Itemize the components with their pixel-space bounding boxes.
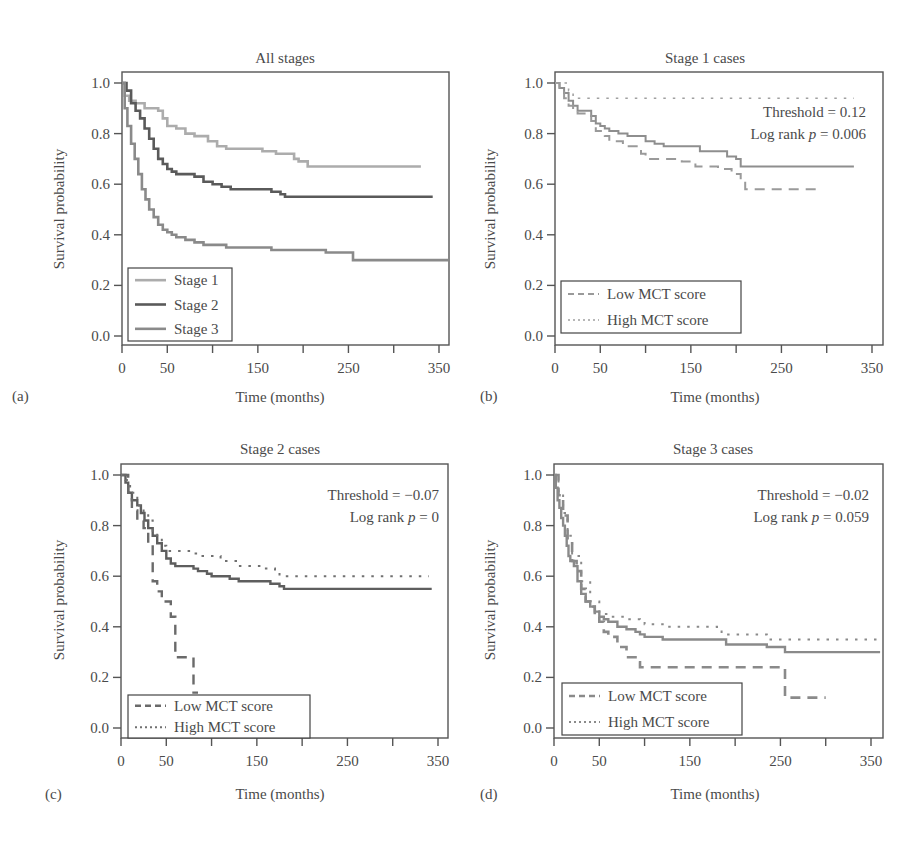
y-tick-label: 0.0 bbox=[523, 720, 542, 736]
x-tick-label: 50 bbox=[592, 753, 607, 769]
y-tick-label: 1.0 bbox=[91, 75, 110, 91]
panel-label: (d) bbox=[480, 786, 498, 803]
figure-canvas: All stages (a) Time (months) Survival pr… bbox=[0, 0, 923, 841]
y-tick-label: 0.2 bbox=[90, 669, 109, 685]
panel-b: Stage 1 cases (b) Time (months) Survival… bbox=[480, 50, 883, 406]
series-overall bbox=[555, 83, 854, 167]
y-tick-label: 0.4 bbox=[524, 227, 543, 243]
y-tick-label: 0.6 bbox=[524, 176, 543, 192]
panel-label: (c) bbox=[45, 786, 62, 803]
legend-label: Stage 1 bbox=[174, 272, 219, 288]
legend: Low MCT scoreHigh MCT score bbox=[562, 683, 742, 735]
log-rank-text: Log rank p = 0.006 bbox=[750, 126, 866, 142]
x-tick-label: 50 bbox=[160, 360, 175, 376]
x-tick-label: 350 bbox=[861, 360, 884, 376]
legend-label: Stage 2 bbox=[174, 297, 219, 313]
panel-title: Stage 2 cases bbox=[240, 441, 320, 457]
y-tick-label: 0.2 bbox=[524, 277, 543, 293]
x-tick-label: 150 bbox=[247, 360, 270, 376]
legend: Stage 1Stage 2Stage 3 bbox=[128, 268, 232, 341]
annotation: Threshold = 0.12Log rank p = 0.006 bbox=[750, 104, 866, 142]
series-low-mct-score bbox=[121, 475, 198, 693]
x-tick-label: 50 bbox=[593, 360, 608, 376]
x-tick-label: 250 bbox=[770, 360, 793, 376]
x-tick-label: 250 bbox=[337, 360, 360, 376]
x-tick-label: 150 bbox=[680, 360, 703, 376]
y-tick-label: 0.6 bbox=[91, 176, 110, 192]
y-tick-label: 0.8 bbox=[524, 126, 543, 142]
legend-label: High MCT score bbox=[607, 312, 709, 328]
panel-title: All stages bbox=[255, 50, 315, 66]
x-tick-label: 250 bbox=[769, 753, 792, 769]
legend: Low MCT scoreHigh MCT score bbox=[128, 695, 310, 738]
y-tick-label: 1.0 bbox=[524, 75, 543, 91]
x-axis-label: Time (months) bbox=[235, 389, 324, 406]
y-tick-label: 0.8 bbox=[90, 518, 109, 534]
series-stage-2 bbox=[122, 83, 433, 197]
legend-label: Stage 3 bbox=[174, 321, 219, 337]
x-tick-label: 0 bbox=[117, 753, 125, 769]
y-axis-label: Survival probability bbox=[482, 148, 498, 269]
x-tick-label: 150 bbox=[246, 753, 269, 769]
x-axis-label: Time (months) bbox=[670, 786, 759, 803]
series-high-mct-score bbox=[555, 83, 854, 98]
panel-label: (a) bbox=[12, 388, 29, 405]
log-rank-text: Log rank p = 0.059 bbox=[753, 509, 869, 525]
x-tick-label: 350 bbox=[427, 753, 450, 769]
y-tick-label: 0.8 bbox=[523, 518, 542, 534]
y-axis-label: Survival probability bbox=[51, 539, 67, 660]
x-tick-label: 250 bbox=[336, 753, 359, 769]
threshold-text: Threshold = −0.02 bbox=[758, 487, 870, 503]
y-tick-label: 0.4 bbox=[91, 227, 110, 243]
y-tick-label: 0.2 bbox=[523, 669, 542, 685]
panel-label: (b) bbox=[480, 388, 498, 405]
log-rank-text: Log rank p = 0 bbox=[350, 509, 439, 525]
y-tick-label: 0.6 bbox=[523, 568, 542, 584]
annotation: Threshold = −0.07Log rank p = 0 bbox=[328, 487, 440, 525]
y-axis-label: Survival probability bbox=[51, 148, 67, 269]
x-axis-label: Time (months) bbox=[670, 389, 759, 406]
threshold-text: Threshold = 0.12 bbox=[763, 104, 866, 120]
annotation: Threshold = −0.02Log rank p = 0.059 bbox=[753, 487, 869, 525]
legend-label: Low MCT score bbox=[607, 286, 706, 302]
y-tick-label: 0.0 bbox=[90, 720, 109, 736]
x-tick-label: 0 bbox=[550, 753, 558, 769]
legend-label: High MCT score bbox=[174, 719, 276, 735]
y-axis-label: Survival probability bbox=[482, 539, 498, 660]
threshold-text: Threshold = −0.07 bbox=[328, 487, 440, 503]
panel-d: Stage 3 cases (d) Time (months) Survival… bbox=[480, 441, 883, 803]
x-tick-label: 150 bbox=[679, 753, 702, 769]
x-tick-label: 350 bbox=[428, 360, 451, 376]
y-tick-label: 1.0 bbox=[90, 467, 109, 483]
x-axis-label: Time (months) bbox=[235, 786, 324, 803]
x-tick-label: 0 bbox=[551, 360, 559, 376]
y-tick-label: 0.8 bbox=[91, 126, 110, 142]
y-tick-label: 0.0 bbox=[524, 328, 543, 344]
legend: Low MCT scoreHigh MCT score bbox=[561, 281, 741, 333]
x-tick-label: 350 bbox=[860, 753, 883, 769]
series-stage-1 bbox=[122, 83, 421, 167]
y-tick-label: 1.0 bbox=[523, 467, 542, 483]
y-tick-label: 0.4 bbox=[90, 619, 109, 635]
y-tick-label: 0.2 bbox=[91, 277, 110, 293]
panel-title: Stage 1 cases bbox=[665, 50, 745, 66]
y-tick-label: 0.4 bbox=[523, 619, 542, 635]
y-tick-label: 0.0 bbox=[91, 328, 110, 344]
x-tick-label: 0 bbox=[118, 360, 126, 376]
panel-c: Stage 2 cases (c) Time (months) Survival… bbox=[45, 441, 449, 803]
panel-title: Stage 3 cases bbox=[673, 441, 753, 457]
y-tick-label: 0.6 bbox=[90, 568, 109, 584]
legend-label: Low MCT score bbox=[608, 688, 707, 704]
legend-label: Low MCT score bbox=[174, 698, 273, 714]
legend-label: High MCT score bbox=[608, 714, 710, 730]
x-tick-label: 50 bbox=[159, 753, 174, 769]
panel-a: All stages (a) Time (months) Survival pr… bbox=[12, 50, 450, 406]
